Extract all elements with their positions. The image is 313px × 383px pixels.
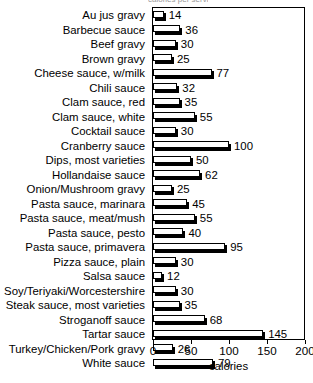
- bar[interactable]: [153, 257, 176, 264]
- bar-row: 77: [153, 66, 305, 81]
- category-label: Cheese sauce, w/milk: [0, 66, 149, 81]
- bar-row: 30: [153, 255, 305, 270]
- category-label: Soy/Teriyaki/Worcestershire: [0, 284, 149, 299]
- category-label: Pasta sauce, meat/mush: [0, 211, 149, 226]
- x-axis-title: calories: [152, 360, 305, 372]
- bar-row: 25: [153, 52, 305, 67]
- bars-layer: 1436302577323555301005062254555409530123…: [153, 8, 305, 339]
- bar[interactable]: [153, 156, 191, 163]
- x-axis-tick-label: 200: [285, 344, 313, 357]
- bar[interactable]: [153, 228, 183, 235]
- bar-row: 30: [153, 284, 305, 299]
- x-axis-tick-label: 150: [247, 344, 287, 357]
- bar-value-label: 30: [181, 37, 194, 52]
- category-label: Turkey/Chicken/Pork gravy: [0, 342, 149, 357]
- x-axis-tick-label: 50: [171, 344, 211, 357]
- bar-value-label: 55: [200, 110, 213, 125]
- bar[interactable]: [153, 199, 187, 206]
- horizontal-bar-chart: Au jus gravyBarbecue sauceBeef gravyBrow…: [0, 0, 313, 383]
- bar-value-label: 30: [181, 255, 194, 270]
- bar-value-label: 12: [167, 269, 180, 284]
- bar-value-label: 68: [210, 313, 223, 328]
- bar[interactable]: [153, 330, 263, 337]
- bar-value-label: 50: [196, 153, 209, 168]
- bar[interactable]: [153, 112, 195, 119]
- bar[interactable]: [153, 170, 200, 177]
- bar-value-label: 35: [185, 95, 198, 110]
- bar[interactable]: [153, 315, 205, 322]
- bar-row: 32: [153, 81, 305, 96]
- bar-row: 100: [153, 139, 305, 154]
- bar[interactable]: [153, 243, 225, 250]
- bar[interactable]: [153, 185, 172, 192]
- bar-row: 55: [153, 110, 305, 125]
- bar[interactable]: [153, 25, 180, 32]
- category-label: Pasta sauce, marinara: [0, 197, 149, 212]
- bar-value-label: 95: [230, 240, 243, 255]
- bar[interactable]: [153, 272, 162, 279]
- bar-value-label: 40: [188, 226, 201, 241]
- category-label: Brown gravy: [0, 52, 149, 67]
- bar[interactable]: [153, 141, 229, 148]
- bar[interactable]: [153, 54, 172, 61]
- bar-value-label: 25: [177, 182, 190, 197]
- bar-value-label: 55: [200, 211, 213, 226]
- x-axis-tick-label: 0: [133, 344, 173, 357]
- bar[interactable]: [153, 286, 176, 293]
- bar-value-label: 35: [185, 298, 198, 313]
- bar[interactable]: [153, 127, 176, 134]
- bar-row: 55: [153, 211, 305, 226]
- bar[interactable]: [153, 69, 212, 76]
- category-label: Stroganoff sauce: [0, 313, 149, 328]
- bar-row: 12: [153, 269, 305, 284]
- category-label: Clam sauce, white: [0, 110, 149, 125]
- category-label: Au jus gravy: [0, 8, 149, 23]
- bar-value-label: 14: [169, 8, 182, 23]
- category-label: Barbecue sauce: [0, 23, 149, 38]
- bar-row: 14: [153, 8, 305, 23]
- bar[interactable]: [153, 11, 164, 18]
- category-label: Pasta sauce, primavera: [0, 240, 149, 255]
- category-label: White sauce: [0, 356, 149, 371]
- bar-row: 62: [153, 168, 305, 183]
- category-label: Chili sauce: [0, 81, 149, 96]
- bar-row: 50: [153, 153, 305, 168]
- x-axis-tick-label: 100: [209, 344, 249, 357]
- bar-value-label: 77: [217, 66, 230, 81]
- bar-row: 30: [153, 37, 305, 52]
- category-label: Salsa sauce: [0, 269, 149, 284]
- bar[interactable]: [153, 40, 176, 47]
- bar-row: 68: [153, 313, 305, 328]
- bar[interactable]: [153, 301, 180, 308]
- x-axis: calories 050100150200: [152, 340, 305, 383]
- bar-row: 95: [153, 240, 305, 255]
- category-label: Steak sauce, most varieties: [0, 298, 149, 313]
- bar[interactable]: [153, 214, 195, 221]
- bar-row: 45: [153, 197, 305, 212]
- bar-value-label: 45: [192, 197, 205, 212]
- category-axis-labels: Au jus gravyBarbecue sauceBeef gravyBrow…: [0, 8, 149, 371]
- bar-row: 30: [153, 124, 305, 139]
- category-label: Pasta sauce, pesto: [0, 226, 149, 241]
- bar-row: 36: [153, 23, 305, 38]
- bar-row: 40: [153, 226, 305, 241]
- bar-value-label: 30: [181, 284, 194, 299]
- bar-row: 35: [153, 95, 305, 110]
- category-label: Cranberry sauce: [0, 139, 149, 154]
- category-label: Cocktail sauce: [0, 124, 149, 139]
- bar-value-label: 62: [205, 168, 218, 183]
- category-label: Beef gravy: [0, 37, 149, 52]
- category-label: Pizza sauce, plain: [0, 255, 149, 270]
- bar[interactable]: [153, 98, 180, 105]
- bar-value-label: 36: [185, 23, 198, 38]
- bar-value-label: 32: [182, 81, 195, 96]
- category-label: Onion/Mushroom gravy: [0, 182, 149, 197]
- category-label: Tartar sauce: [0, 327, 149, 342]
- category-label: Dips, most varieties: [0, 153, 149, 168]
- bar-value-label: 100: [234, 139, 253, 154]
- category-label: Clam sauce, red: [0, 95, 149, 110]
- category-label: Hollandaise sauce: [0, 168, 149, 183]
- bar[interactable]: [153, 83, 177, 90]
- bar-row: 25: [153, 182, 305, 197]
- bar-row: 35: [153, 298, 305, 313]
